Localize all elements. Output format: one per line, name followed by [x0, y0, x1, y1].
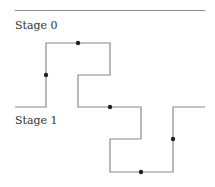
stage-0-label: Stage 0	[15, 20, 58, 31]
path-dot	[171, 137, 175, 141]
stage-1-label: Stage 1	[15, 115, 58, 126]
path-dot	[76, 41, 80, 45]
stage-path-diagram: Stage 0 Stage 1	[0, 0, 215, 187]
path-dot	[44, 73, 48, 77]
path-dot	[139, 170, 143, 174]
path-dot	[108, 105, 112, 109]
